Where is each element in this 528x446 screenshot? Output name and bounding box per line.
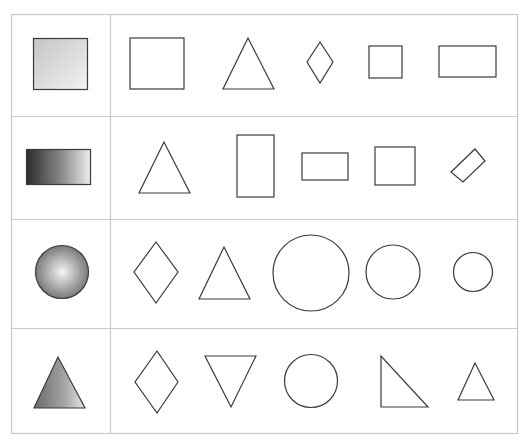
option-triangle[interactable] [199,247,250,299]
option-diamond[interactable] [134,242,178,303]
row-1 [34,38,497,90]
row-2 [27,135,486,197]
option-right-triangle[interactable] [381,356,428,407]
option-circle[interactable] [285,355,338,408]
option-small-square[interactable] [369,46,402,78]
option-tall-rectangle[interactable] [237,135,274,197]
option-rotated-rectangle[interactable] [451,149,485,182]
row-4 [34,351,494,413]
option-large-circle[interactable] [273,235,349,311]
option-rectangle[interactable] [439,46,496,77]
sample-gradient-circle [36,246,89,299]
option-wide-rectangle[interactable] [302,153,348,180]
option-square[interactable] [130,38,184,89]
option-small-circle[interactable] [454,253,493,292]
option-diamond[interactable] [307,42,333,83]
option-triangle[interactable] [223,38,274,89]
option-small-triangle[interactable] [458,363,494,400]
sample-gradient-rectangle [27,150,91,185]
option-square[interactable] [375,147,415,185]
option-triangle[interactable] [139,142,190,193]
option-diamond[interactable] [135,351,178,413]
option-inverted-triangle[interactable] [205,356,256,407]
option-medium-circle[interactable] [366,245,420,299]
row-3 [36,235,493,311]
shape-matching-grid [0,0,528,446]
sample-gradient-triangle [34,357,85,408]
sample-gradient-square [34,39,88,90]
